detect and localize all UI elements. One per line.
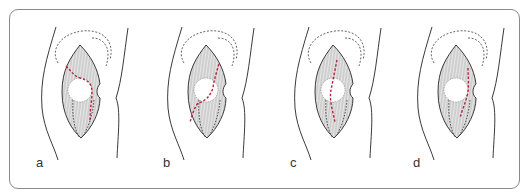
panel-b <box>168 27 254 160</box>
panel-label-c: c <box>290 155 297 170</box>
panel-d <box>418 27 504 160</box>
panel-label-a: a <box>36 155 43 170</box>
panel-c <box>295 27 381 160</box>
surgical-diagram <box>0 0 526 194</box>
panel-label-b: b <box>163 155 170 170</box>
panel-a <box>42 27 128 160</box>
panel-label-d: d <box>413 155 420 170</box>
